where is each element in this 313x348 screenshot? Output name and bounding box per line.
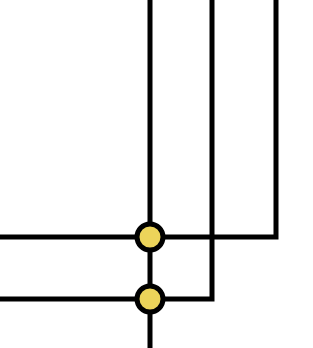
wire-w2	[0, 0, 212, 299]
junction-top-node	[137, 224, 163, 250]
junction-bottom-node	[137, 286, 163, 312]
wire-w3	[0, 0, 276, 237]
wire-diagram	[0, 0, 313, 348]
